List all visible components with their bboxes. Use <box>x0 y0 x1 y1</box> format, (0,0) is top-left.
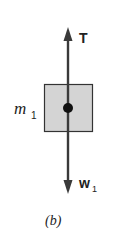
tension-arrow-icon <box>64 27 73 41</box>
weight-label: w <box>78 175 90 191</box>
weight-arrow-icon <box>64 180 73 194</box>
weight-label-subscript: 1 <box>92 184 97 194</box>
mass-label-subscript: 1 <box>31 110 37 121</box>
tension-label: T <box>79 30 88 46</box>
free-body-diagram: T m 1 w 1 (b) <box>0 0 116 237</box>
figure-caption: (b) <box>45 213 62 229</box>
mass-label: m <box>14 99 26 118</box>
center-of-mass-dot <box>63 103 73 113</box>
